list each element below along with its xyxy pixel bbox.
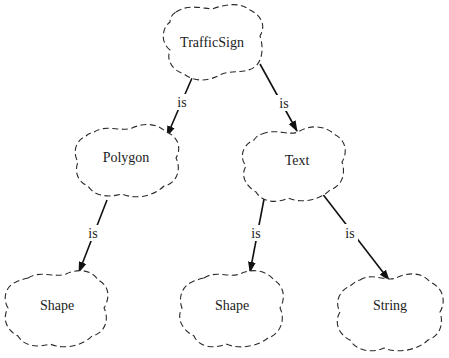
node-polygon: Polygon bbox=[75, 125, 179, 197]
edge-text-string: is bbox=[318, 188, 389, 280]
edge-text-shape: is bbox=[248, 194, 265, 272]
node-label: String bbox=[373, 298, 407, 313]
edge-polygon-shape: is bbox=[79, 200, 107, 272]
edge-trafficsign-text: is bbox=[260, 64, 297, 131]
edge-trafficsign-polygon: is bbox=[167, 78, 192, 136]
node-label: Polygon bbox=[103, 150, 150, 165]
edge-label: is bbox=[279, 96, 288, 111]
node-label: Shape bbox=[40, 298, 74, 313]
node-text: Text bbox=[242, 127, 345, 201]
node-shape-middle: Shape bbox=[180, 271, 284, 347]
edge-label: is bbox=[177, 95, 186, 110]
node-trafficsign: TrafficSign bbox=[163, 5, 263, 80]
edge-label: is bbox=[251, 226, 260, 241]
inheritance-diagram: is is is is is TrafficSign Polygon Text … bbox=[0, 0, 449, 358]
node-shape-left: Shape bbox=[5, 271, 108, 347]
edge-label: is bbox=[88, 226, 97, 241]
node-label: TrafficSign bbox=[180, 35, 244, 50]
node-label: Shape bbox=[215, 298, 249, 313]
node-label: Text bbox=[285, 153, 310, 168]
edge-label: is bbox=[345, 226, 354, 241]
node-string: String bbox=[337, 274, 443, 351]
